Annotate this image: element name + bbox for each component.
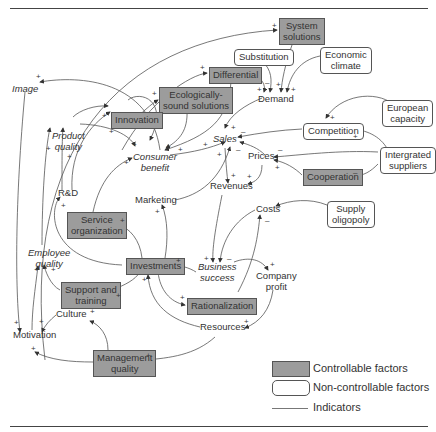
sign-plus: + xyxy=(204,255,209,263)
sign-plus: + xyxy=(330,114,335,122)
sign-minus: – xyxy=(265,217,269,225)
node-support-training: Support and training xyxy=(61,282,121,309)
sign-plus: + xyxy=(291,86,296,94)
sign-plus: + xyxy=(275,164,280,172)
sign-plus: + xyxy=(14,319,19,327)
sign-plus: + xyxy=(120,217,125,225)
sign-plus: + xyxy=(51,266,56,274)
node-rd: R&D xyxy=(58,188,78,199)
node-sales: Sales xyxy=(213,134,237,145)
sign-plus: + xyxy=(200,64,205,72)
sign-plus: + xyxy=(116,292,121,300)
sign-plus: + xyxy=(276,81,281,89)
sign-plus: + xyxy=(247,173,252,181)
sign-minus: – xyxy=(241,128,245,136)
legend-noncontrollable-label: Non-controllable factors xyxy=(313,381,429,393)
node-consumer-benefit: Consumer benefit xyxy=(133,152,177,173)
node-rationalization: Rationalization xyxy=(187,298,257,315)
sign-plus: + xyxy=(270,261,275,269)
legend-swatch-controllable xyxy=(272,361,310,377)
node-differential: Differential xyxy=(209,67,262,84)
sign-minus: – xyxy=(227,255,231,263)
node-system-solutions: System solutions xyxy=(279,18,325,45)
node-ecological: Ecologically- sound solutions xyxy=(159,87,233,114)
node-prices: Prices xyxy=(248,151,274,162)
sign-plus: + xyxy=(34,266,39,274)
sign-plus: + xyxy=(180,294,185,302)
node-demand: Demand xyxy=(258,94,294,105)
sign-minus: – xyxy=(278,146,282,154)
sign-plus: + xyxy=(142,276,147,284)
sign-plus: + xyxy=(67,153,72,161)
sign-plus: + xyxy=(46,145,51,153)
sign-plus: + xyxy=(102,112,107,120)
sign-plus: + xyxy=(132,141,137,149)
legend-swatch-noncontrollable xyxy=(272,380,310,396)
sign-plus: + xyxy=(176,257,181,265)
sign-plus: + xyxy=(31,345,36,353)
sign-plus: + xyxy=(155,208,160,216)
legend-indicators-label: Indicators xyxy=(313,401,361,413)
node-resources: Resources xyxy=(200,322,245,333)
node-company-profit: Company profit xyxy=(256,271,297,292)
node-business-success: Business success xyxy=(198,262,237,283)
legend-indicators-line xyxy=(272,408,308,409)
sign-plus: + xyxy=(36,73,41,81)
node-motivation: Motivation xyxy=(13,330,56,341)
sign-plus: + xyxy=(39,318,44,326)
bottom-rule xyxy=(10,426,428,427)
sign-minus: – xyxy=(236,146,240,154)
node-costs: Costs xyxy=(256,204,280,215)
node-service-organization: Service organization xyxy=(67,212,127,239)
sign-plus: + xyxy=(166,143,171,151)
sign-plus: + xyxy=(109,128,114,136)
node-economic-climate: Economic climate xyxy=(320,47,372,74)
node-european-capacity: European capacity xyxy=(382,100,433,127)
node-culture: Culture xyxy=(56,309,87,320)
sign-minus: – xyxy=(353,169,357,177)
node-revenues: Revenues xyxy=(210,181,253,192)
node-substitution: Substitution xyxy=(234,49,294,66)
node-product-quality: Product quality xyxy=(52,131,85,152)
sign-plus: + xyxy=(124,159,129,167)
sign-plus: + xyxy=(244,318,249,326)
node-marketing: Marketing xyxy=(135,195,177,206)
sign-plus: + xyxy=(61,202,66,210)
node-image: Image xyxy=(12,84,38,95)
sign-plus: + xyxy=(231,124,236,132)
sign-minus: – xyxy=(265,79,269,87)
sign-plus: + xyxy=(272,22,277,30)
sign-plus: + xyxy=(203,141,208,149)
node-supply-oligopoly: Supply oligopoly xyxy=(327,201,375,228)
node-integrated-suppliers: Intergrated suppliers xyxy=(380,147,436,174)
sign-plus: + xyxy=(353,133,358,141)
sign-plus: + xyxy=(90,308,95,316)
sign-plus: + xyxy=(146,352,151,360)
legend-controllable-label: Controllable factors xyxy=(313,362,408,374)
sign-plus: + xyxy=(257,86,262,94)
node-innovation: Innovation xyxy=(111,112,163,129)
sign-plus: + xyxy=(152,90,157,98)
sign-plus: + xyxy=(217,151,222,159)
sign-plus: + xyxy=(178,146,183,154)
sign-plus: + xyxy=(231,172,236,180)
